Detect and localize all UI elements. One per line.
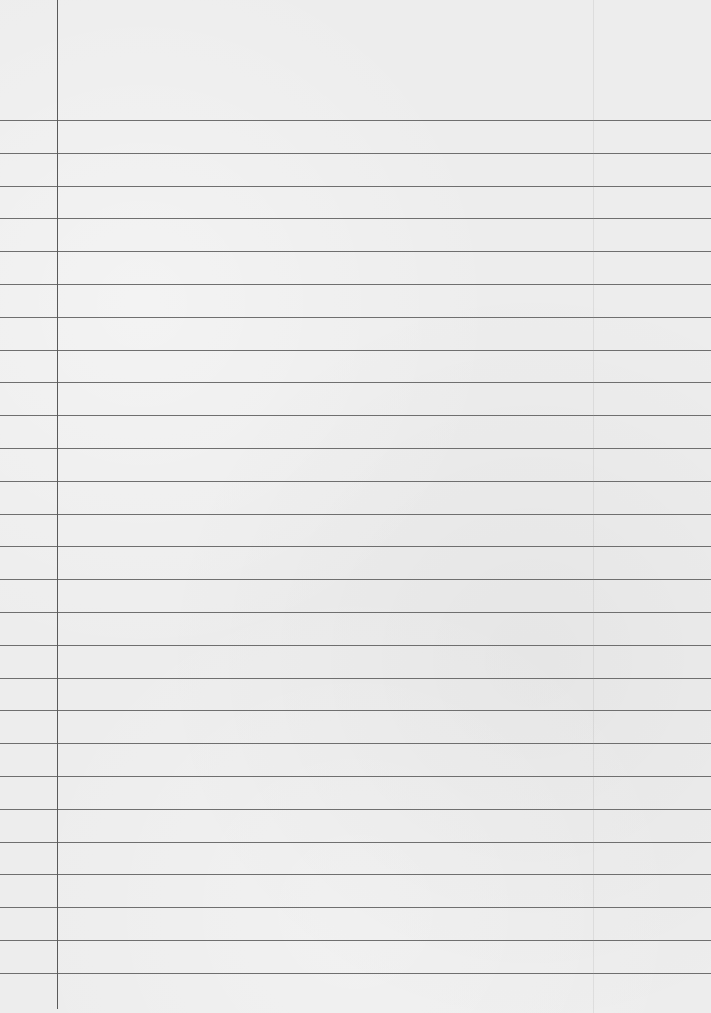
ruled-line	[0, 284, 711, 285]
ruled-line	[0, 186, 711, 187]
ruled-line	[0, 645, 711, 646]
ruled-line	[0, 612, 711, 613]
ruled-line	[0, 415, 711, 416]
ruled-line	[0, 350, 711, 351]
ruled-line	[0, 907, 711, 908]
ruled-line	[0, 776, 711, 777]
ruled-line	[0, 514, 711, 515]
ruled-line	[0, 218, 711, 219]
ruled-line	[0, 940, 711, 941]
margin-line	[57, 0, 58, 1009]
ruled-line	[0, 546, 711, 547]
lined-paper-sheet	[0, 0, 711, 1013]
ruled-line	[0, 382, 711, 383]
ruled-line	[0, 448, 711, 449]
ruled-line	[0, 153, 711, 154]
ruled-line	[0, 842, 711, 843]
ruled-line	[0, 481, 711, 482]
fold-crease	[593, 0, 594, 1013]
ruled-line	[0, 579, 711, 580]
ruled-line	[0, 710, 711, 711]
ruled-line	[0, 809, 711, 810]
ruled-line	[0, 251, 711, 252]
ruled-line	[0, 973, 711, 974]
ruled-line	[0, 874, 711, 875]
ruled-line	[0, 120, 711, 121]
ruled-line	[0, 743, 711, 744]
ruled-line	[0, 317, 711, 318]
ruled-line	[0, 678, 711, 679]
